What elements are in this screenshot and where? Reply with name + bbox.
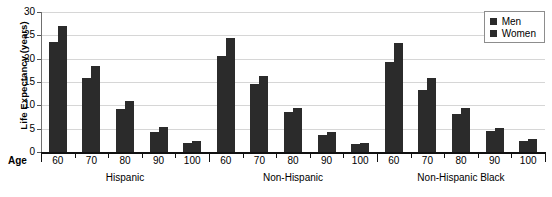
x-tick-label: 90 (480, 155, 510, 166)
x-tick-label: 80 (278, 155, 308, 166)
legend-item-women: Women (490, 27, 536, 39)
x-tick-label: 100 (513, 155, 543, 166)
bar-men (452, 114, 461, 152)
legend-item-men: Men (490, 15, 536, 27)
bar-pair (149, 12, 169, 152)
legend-label-men: Men (502, 16, 521, 27)
x-tick-label: 60 (43, 155, 73, 166)
bar-women (461, 108, 470, 152)
x-tick-label: 100 (177, 155, 207, 166)
bar-women (91, 66, 100, 152)
group-label: Non-Hispanic Black (381, 172, 541, 183)
bar-men (385, 62, 394, 152)
x-tick-label: 90 (144, 155, 174, 166)
bar-men (418, 90, 427, 152)
x-tick-label: 60 (379, 155, 409, 166)
bar-pair (115, 12, 135, 152)
y-tick-label: 15 (15, 76, 35, 87)
bar-pair (216, 12, 236, 152)
bar-women (327, 132, 336, 152)
y-tick-label: 25 (15, 29, 35, 40)
bar-men (116, 109, 125, 152)
bar-pair (384, 12, 404, 152)
bar-women (159, 127, 168, 152)
group-labels: HispanicNon-HispanicNon-Hispanic Black (41, 172, 545, 186)
group-label: Non-Hispanic (213, 172, 373, 183)
bar-pair (48, 12, 68, 152)
bar-women (394, 43, 403, 152)
bar-men (183, 143, 192, 152)
bar-pair (81, 12, 101, 152)
x-tick-label: 80 (446, 155, 476, 166)
bar-men (351, 144, 360, 152)
y-tick-label: 20 (15, 53, 35, 64)
x-tick-label: 80 (110, 155, 140, 166)
bar-men (318, 135, 327, 152)
bar-pair (283, 12, 303, 152)
x-tick-label: 70 (412, 155, 442, 166)
bar-women (58, 26, 67, 152)
bar-women (360, 143, 369, 152)
bar-women (125, 101, 134, 152)
group-label: Hispanic (45, 172, 205, 183)
bar-men (486, 131, 495, 152)
bar-men (150, 132, 159, 152)
legend-swatch-icon (490, 30, 497, 37)
bar-women (528, 139, 537, 152)
x-tick-label: 90 (312, 155, 342, 166)
legend-swatch-icon (490, 18, 497, 25)
plot-area: 051015202530 (41, 12, 545, 152)
y-tick-label: 30 (15, 6, 35, 17)
bar-men (49, 42, 58, 152)
bar-women (293, 108, 302, 152)
x-tick-label: 60 (211, 155, 241, 166)
group-separator-tick (545, 152, 546, 162)
bar-pair (350, 12, 370, 152)
bar-men (519, 141, 528, 152)
legend-label-women: Women (502, 28, 536, 39)
bar-men (217, 56, 226, 152)
x-tick-label: 70 (76, 155, 106, 166)
x-tick-label: 100 (345, 155, 375, 166)
x-tick-label: 70 (244, 155, 274, 166)
y-tick-label: 10 (15, 99, 35, 110)
bar-series-container (41, 12, 545, 152)
bar-women (259, 76, 268, 152)
y-tick-label: 5 (15, 123, 35, 134)
bar-pair (451, 12, 471, 152)
bar-men (284, 112, 293, 152)
bar-men (250, 84, 259, 152)
bar-pair (317, 12, 337, 152)
bar-women (427, 78, 436, 152)
bar-men (82, 78, 91, 152)
legend: Men Women (484, 11, 545, 43)
bar-pair (249, 12, 269, 152)
bar-women (226, 38, 235, 152)
life-expectancy-bar-chart: Life Expectancy (years) 051015202530 Age… (0, 0, 552, 197)
x-axis-tick-labels: 607080901006070809010060708090100 (41, 155, 545, 169)
bar-pair (417, 12, 437, 152)
x-axis-line (41, 152, 545, 154)
bar-women (495, 128, 504, 152)
bar-pair (182, 12, 202, 152)
bar-women (192, 141, 201, 152)
age-axis-label: Age (8, 155, 27, 166)
